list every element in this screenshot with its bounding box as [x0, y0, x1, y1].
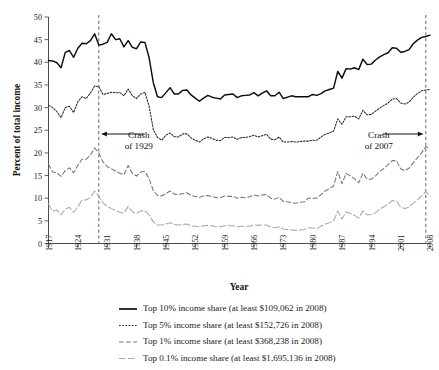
y-tick-label: 45 — [34, 36, 42, 45]
y-tick-group: 05101520253035404550 — [34, 13, 49, 249]
series-line-top10 — [49, 34, 431, 102]
x-tick-label: 1966 — [250, 235, 259, 251]
x-axis-title: Year — [230, 282, 249, 292]
x-tick-label: 1980 — [309, 235, 318, 251]
x-tick-label: 1938 — [133, 235, 142, 251]
annotation-crash2007-line2: of 2007 — [365, 141, 394, 151]
income-share-chart-figure: 05101520253035404550 1917192419311938194… — [0, 0, 439, 370]
chart-canvas: 05101520253035404550 1917192419311938194… — [0, 0, 439, 370]
annotation-crash1929-line2: of 1929 — [125, 141, 154, 151]
series-line-top1 — [49, 147, 431, 204]
x-tick-group: 1917192419311938194519521959196619731980… — [45, 235, 436, 251]
y-axis-title: Percent of total income — [12, 84, 22, 176]
y-tick-label: 50 — [34, 13, 42, 22]
x-tick-label: 1994 — [368, 235, 377, 251]
y-tick-label: 35 — [34, 81, 42, 90]
x-tick-label: 2001 — [397, 235, 406, 251]
y-tick-label: 0 — [38, 240, 42, 249]
chart-legend: Top 10% income share (at least $109,062 … — [119, 303, 336, 363]
x-tick-label: 1917 — [45, 235, 54, 251]
y-axis: 05101520253035404550 — [34, 13, 49, 249]
series-line-top01 — [49, 191, 431, 230]
x-tick-label: 2008 — [426, 235, 435, 251]
x-tick-label: 1987 — [338, 235, 347, 251]
y-tick-label: 20 — [34, 149, 42, 158]
y-tick-label: 30 — [34, 104, 42, 113]
annotation-crash1929-line1: Crash — [128, 130, 150, 140]
y-tick-label: 25 — [34, 126, 42, 135]
x-tick-label: 1973 — [279, 235, 288, 251]
legend-label-2: Top 1% income share (at least $368,238 i… — [143, 336, 322, 346]
annotation-crash2007-arrowhead — [418, 131, 423, 136]
legend-label-3: Top 0.1% income share (at least $1,695,1… — [143, 353, 336, 363]
annotation-group: Crashof 1929Crashof 2007 — [102, 130, 423, 151]
annotation-crash2007-line1: Crash — [368, 130, 390, 140]
legend-label-1: Top 5% income share (at least $152,726 i… — [143, 320, 322, 330]
legend-label-0: Top 10% income share (at least $109,062 … — [143, 303, 326, 313]
y-tick-label: 10 — [34, 194, 42, 203]
y-tick-label: 15 — [34, 172, 42, 181]
x-tick-label: 1945 — [162, 235, 171, 251]
x-tick-label: 1931 — [103, 235, 112, 251]
annotation-crash1929-arrowhead — [102, 131, 107, 136]
y-tick-label: 40 — [34, 58, 42, 67]
x-tick-label: 1952 — [191, 235, 200, 251]
x-tick-label: 1959 — [221, 235, 230, 251]
y-tick-label: 5 — [38, 217, 42, 226]
x-axis: 1917192419311938194519521959196619731980… — [45, 235, 436, 251]
x-tick-label: 1924 — [74, 235, 83, 251]
